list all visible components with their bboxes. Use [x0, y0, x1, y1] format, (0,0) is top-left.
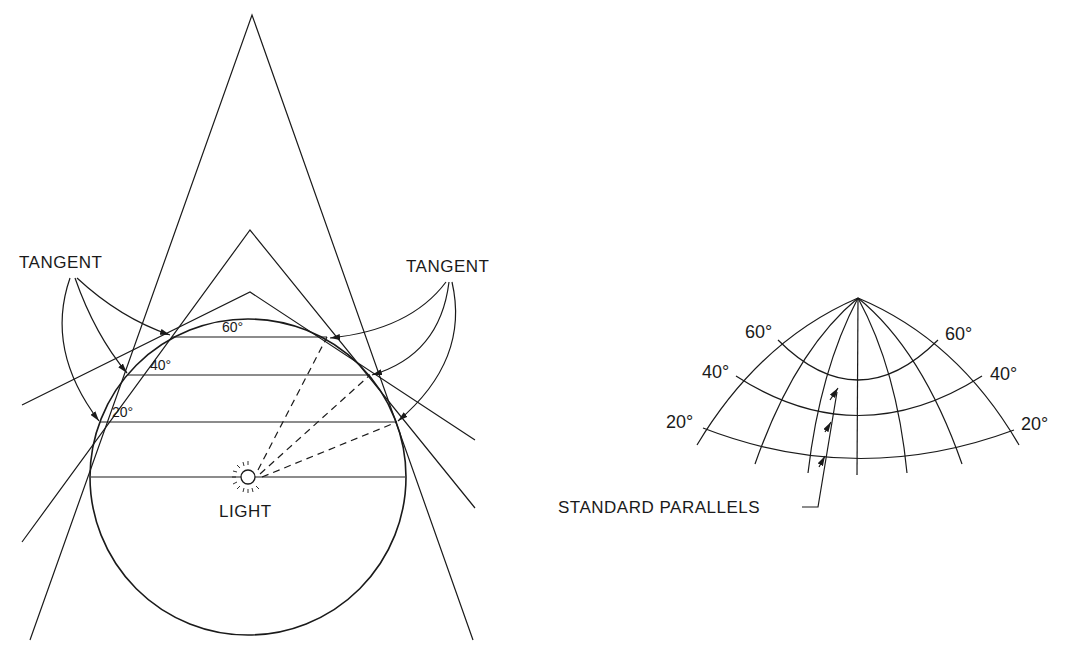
- tangent-arrow-right-60: [330, 282, 446, 338]
- tangent-right-label: TANGENT: [406, 257, 489, 276]
- callout-leader: [802, 392, 837, 507]
- map-parallel-20: [703, 428, 1014, 459]
- label-60: 60°: [222, 319, 243, 335]
- tangent-left-label: TANGENT: [19, 253, 102, 272]
- map-label-left-20: 20°: [666, 412, 693, 432]
- cone-40: [22, 230, 475, 542]
- light-label: LIGHT: [219, 502, 272, 521]
- conic-map-figure: 60° 40° 20° 60° 40° 20° STANDARD PARALLE…: [558, 298, 1048, 517]
- label-40: 40°: [150, 357, 171, 373]
- conic-projection-diagram: LIGHT 60° 40° 20° TANGENT TANGENT: [0, 0, 1070, 655]
- tangent-arrow-left-20: [62, 278, 99, 421]
- light-ray-60: [258, 337, 327, 470]
- standard-parallels-label: STANDARD PARALLELS: [558, 498, 760, 517]
- tangent-arrow-right-40: [372, 282, 449, 375]
- label-20: 20°: [112, 404, 133, 420]
- light-ray-20: [262, 422, 397, 477]
- light-ray-40: [260, 375, 370, 474]
- tangent-arrow-left-40: [75, 278, 127, 373]
- map-label-right-60: 60°: [945, 324, 972, 344]
- map-label-left-40: 40°: [702, 362, 729, 382]
- globe-projection-figure: LIGHT 60° 40° 20° TANGENT TANGENT: [19, 15, 489, 640]
- map-parallel-40: [736, 376, 982, 416]
- callout-arrow-20: [819, 456, 825, 467]
- map-label-right-40: 40°: [990, 364, 1017, 384]
- map-label-right-20: 20°: [1021, 414, 1048, 434]
- map-label-left-60: 60°: [745, 322, 772, 342]
